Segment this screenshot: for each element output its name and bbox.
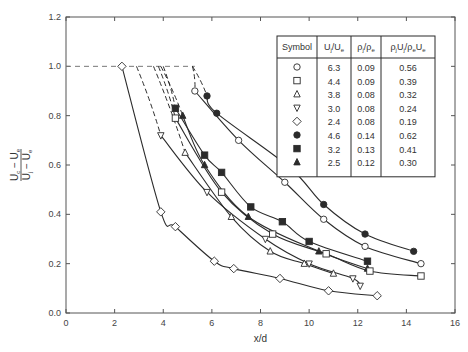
legend-cell: 0.56 xyxy=(399,63,417,73)
open-triangle-up-marker xyxy=(182,149,188,155)
open-diamond-marker xyxy=(118,62,126,70)
open-triangle-down-marker xyxy=(357,283,363,289)
y-tick-label: 1.0 xyxy=(48,61,61,71)
legend-cell: 0.09 xyxy=(357,63,375,73)
x-axis-title: x/d xyxy=(254,333,267,344)
filled-circle-marker xyxy=(321,201,327,207)
open-circle-marker xyxy=(321,216,327,222)
y-tick-label: 0.6 xyxy=(48,160,61,170)
filled-square-marker xyxy=(201,152,207,158)
x-tick-label: 12 xyxy=(353,318,363,328)
x-tick-label: 6 xyxy=(209,318,214,328)
open-circle-marker xyxy=(362,243,368,249)
open-circle-marker xyxy=(235,137,241,143)
legend-cell: 0.41 xyxy=(399,145,417,155)
legend-cell: 0.62 xyxy=(399,131,417,141)
filled-square-marker xyxy=(172,105,178,111)
filled-square-marker xyxy=(364,258,370,264)
y-axis-numerator: Uc − Ue xyxy=(9,148,21,181)
x-tick-label: 14 xyxy=(401,318,411,328)
y-axis-denominator: Uj − Ue xyxy=(21,149,33,180)
filled-square-marker xyxy=(248,204,254,210)
x-tick-label: 2 xyxy=(112,318,117,328)
legend-cell: 0.24 xyxy=(399,104,417,114)
dashed-leader xyxy=(154,66,186,152)
legend-cell: 0.30 xyxy=(399,158,417,168)
open-circle-marker xyxy=(192,88,198,94)
open-diamond-marker xyxy=(157,208,165,216)
filled-square-marker xyxy=(279,219,285,225)
x-tick-label: 0 xyxy=(63,318,68,328)
legend-cell: 0.09 xyxy=(357,77,375,87)
open-circle-marker xyxy=(294,64,300,70)
open-circle-marker xyxy=(418,260,424,266)
y-tick-label: 0.0 xyxy=(48,308,61,318)
filled-circle-marker xyxy=(214,110,220,116)
filled-circle-marker xyxy=(410,248,416,254)
legend-cell: 4.6 xyxy=(328,131,341,141)
open-triangle-down-marker xyxy=(262,236,268,242)
legend-cell: 0.19 xyxy=(399,117,417,127)
filled-square-marker xyxy=(218,169,224,175)
legend-header-0: Symbol xyxy=(282,42,312,52)
filled-circle-marker xyxy=(294,132,300,138)
y-tick-label: 0.8 xyxy=(48,111,61,121)
y-tick-label: 0.2 xyxy=(48,259,61,269)
dashed-leader xyxy=(137,66,161,135)
legend-cell: 6.3 xyxy=(328,63,341,73)
open-square-marker xyxy=(269,231,275,237)
y-axis-title: Uc − UeUj − Ue xyxy=(9,148,33,181)
open-square-marker xyxy=(323,251,329,257)
open-square-marker xyxy=(218,189,224,195)
legend-table: SymbolUj/Ueρj/ρeρjUj/ρeUe6.30.090.564.40… xyxy=(277,36,435,177)
legend-cell: 0.14 xyxy=(357,131,375,141)
open-circle-marker xyxy=(282,179,288,185)
x-tick-label: 4 xyxy=(161,318,166,328)
filled-circle-marker xyxy=(204,93,210,99)
legend-cell: 3.2 xyxy=(328,145,341,155)
open-square-marker xyxy=(418,273,424,279)
legend-cell: 0.39 xyxy=(399,77,417,87)
legend-cell: 0.12 xyxy=(357,158,375,168)
open-square-marker xyxy=(172,115,178,121)
filled-square-marker xyxy=(306,238,312,244)
y-tick-label: 0.4 xyxy=(48,209,61,219)
legend-cell: 3.8 xyxy=(328,90,341,100)
legend-cell: 0.08 xyxy=(357,90,375,100)
open-square-marker xyxy=(367,268,373,274)
legend-cell: 0.08 xyxy=(357,117,375,127)
x-tick-label: 16 xyxy=(450,318,460,328)
legend-cell: 0.08 xyxy=(357,104,375,114)
jet-centerline-velocity-chart: 02468101214160.00.20.40.60.81.01.2x/dUc … xyxy=(0,0,468,352)
open-square-marker xyxy=(294,77,300,83)
legend-cell: 2.5 xyxy=(328,158,341,168)
x-tick-label: 8 xyxy=(258,318,263,328)
y-tick-label: 1.2 xyxy=(48,12,61,22)
filled-triangle-up-marker xyxy=(180,112,186,118)
legend-cell: 3.0 xyxy=(328,104,341,114)
filled-circle-marker xyxy=(362,231,368,237)
open-diamond-marker xyxy=(230,264,238,272)
open-triangle-up-marker xyxy=(267,248,273,254)
x-tick-label: 10 xyxy=(304,318,314,328)
legend-cell: 0.13 xyxy=(357,145,375,155)
open-diamond-marker xyxy=(276,274,284,282)
legend-cell: 4.4 xyxy=(328,77,341,87)
open-diamond-marker xyxy=(373,292,381,300)
legend-cell: 2.4 xyxy=(328,117,341,127)
open-diamond-marker xyxy=(324,287,332,295)
filled-square-marker xyxy=(294,145,300,151)
dashed-leader xyxy=(163,66,175,108)
legend-cell: 0.32 xyxy=(399,90,417,100)
